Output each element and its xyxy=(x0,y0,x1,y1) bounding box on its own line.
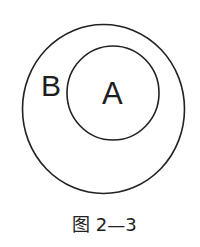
venn-diagram: B A 图 2—3 xyxy=(0,0,200,247)
set-b-label: B xyxy=(41,71,61,101)
figure-caption: 图 2—3 xyxy=(72,216,142,234)
venn-diagram-svg xyxy=(0,0,200,247)
set-a-label: A xyxy=(102,78,123,109)
